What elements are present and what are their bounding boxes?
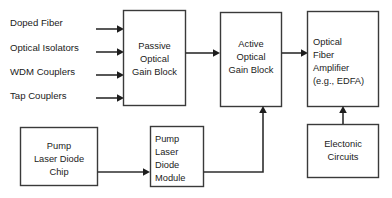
connector-chip-to-module — [98, 168, 151, 176]
block-pump-laser-diode-chip[interactable]: Pump Laser Diode Chip — [21, 128, 98, 186]
block-passive-optical-gain-block[interactable]: Passive Optical Gain Block — [124, 11, 186, 106]
pump-module-line-1: Pump — [155, 134, 179, 144]
connector-module-to-active — [204, 106, 267, 172]
pump-chip-line-2: Laser Diode — [34, 154, 84, 164]
input-label-tap-couplers: Tap Couplers — [10, 90, 67, 101]
passive-gain-line-1: Passive — [138, 41, 171, 51]
active-gain-line-1: Active — [238, 39, 263, 49]
block-active-optical-gain-block[interactable]: Active Optical Gain Block — [221, 13, 282, 107]
fiber-amplifier-line-3: Amplifier — [313, 63, 349, 73]
electronic-circuits-line-1: Electonic — [324, 139, 362, 149]
connector-passive-to-active — [186, 49, 221, 57]
input-label-wdm-couplers: WDM Couplers — [10, 66, 75, 77]
block-diagram: Doped Fiber Optical Isolators WDM Couple… — [0, 0, 392, 198]
input-arrow-doped-fiber — [96, 25, 124, 33]
input-label-optical-isolators: Optical Isolators — [10, 42, 79, 53]
passive-gain-line-2: Optical — [140, 54, 169, 64]
electronic-circuits-line-2: Circuits — [328, 152, 359, 162]
passive-gain-line-3: Gain Block — [132, 67, 177, 77]
pump-module-line-4: Module — [155, 173, 186, 183]
fiber-amplifier-line-2: Fiber — [313, 50, 334, 60]
pump-module-line-2: Laser — [155, 147, 178, 157]
block-optical-fiber-amplifier[interactable]: Optical Fiber Amplifier (e.g., EDFA) — [308, 12, 379, 107]
active-gain-line-2: Optical — [237, 52, 266, 62]
input-arrow-tap-couplers — [96, 94, 124, 102]
fiber-amplifier-line-1: Optical — [313, 37, 342, 47]
block-pump-laser-diode-module[interactable]: Pump Laser Diode Module — [151, 127, 204, 187]
input-arrow-optical-isolators — [96, 48, 124, 56]
pump-chip-line-1: Pump — [47, 141, 71, 151]
pump-chip-line-3: Chip — [49, 167, 68, 177]
connector-active-to-amplifier — [282, 49, 309, 57]
input-label-doped-fiber: Doped Fiber — [10, 17, 64, 28]
pump-module-line-3: Diode — [155, 160, 179, 170]
diagram-canvas: Doped Fiber Optical Isolators WDM Couple… — [0, 0, 392, 198]
fiber-amplifier-line-4: (e.g., EDFA) — [313, 76, 364, 86]
connector-circuits-to-amplifier — [339, 106, 347, 124]
active-gain-line-3: Gain Block — [229, 65, 274, 75]
block-electronic-circuits[interactable]: Electonic Circuits — [308, 125, 379, 178]
input-arrow-wdm-couplers — [96, 71, 124, 79]
